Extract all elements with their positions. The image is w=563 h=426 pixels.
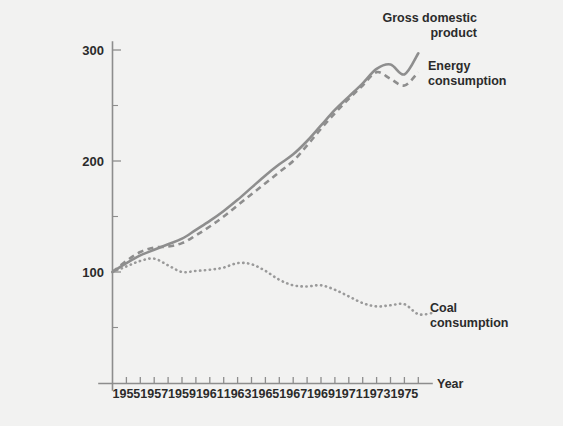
x-axis-tick-labels: 1955195719591961196319651967196919711973… — [112, 387, 418, 401]
y-axis-tick-label: 300 — [82, 43, 104, 58]
x-axis-tick-label: 1961 — [196, 387, 224, 401]
x-axis-tick-label: 1957 — [140, 387, 168, 401]
x-axis-tick-label: 1973 — [363, 387, 391, 401]
chart-canvas: 300200100 195519571959196119631965196719… — [0, 0, 563, 426]
annotation-gdp-line1: Gross domestic — [383, 11, 478, 25]
y-axis-minor-ticks — [113, 106, 118, 328]
x-axis-title: Year — [437, 377, 464, 391]
series-energy-consumption — [113, 72, 419, 272]
annotation-energy-line2: consumption — [428, 74, 506, 88]
x-axis-tick-label: 1969 — [307, 387, 335, 401]
x-axis-tick-label: 1959 — [168, 387, 196, 401]
x-axis-tick-label: 1975 — [390, 387, 418, 401]
y-axis-tick-label: 200 — [82, 154, 104, 169]
annotation-coal-line1: Coal — [430, 301, 457, 315]
series-coal-consumption — [113, 258, 433, 314]
y-axis-tick-label: 100 — [82, 265, 104, 280]
x-axis-tick-label: 1965 — [251, 387, 279, 401]
annotation-energy-line1: Energy — [428, 59, 470, 73]
x-axis-ticks — [126, 377, 418, 383]
y-axis-major-ticks — [113, 50, 121, 272]
x-axis-tick-label: 1963 — [224, 387, 252, 401]
y-axis-tick-labels: 300200100 — [82, 43, 104, 280]
x-axis-tick-label: 1955 — [112, 387, 140, 401]
x-axis-tick-label: 1971 — [335, 387, 363, 401]
annotation-coal-line2: consumption — [430, 316, 508, 330]
chart-figure: 300200100 195519571959196119631965196719… — [0, 0, 563, 426]
series-gross-domestic-product — [113, 53, 419, 272]
annotation-gdp-line2: product — [430, 26, 477, 40]
x-axis-tick-label: 1967 — [279, 387, 307, 401]
